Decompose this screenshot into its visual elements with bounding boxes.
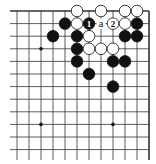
white-stone	[119, 5, 131, 17]
white-stone-icon	[95, 5, 107, 17]
black-stone-icon	[107, 56, 119, 68]
black-stone-icon	[71, 56, 83, 68]
point-letter-label: a	[99, 17, 104, 29]
white-stone-icon	[119, 5, 131, 17]
black-stone-icon	[71, 30, 83, 42]
move-number-label: 2	[111, 19, 116, 29]
black-stone	[107, 56, 119, 68]
white-stone-icon	[71, 5, 83, 17]
white-stone	[83, 43, 95, 55]
black-stone-icon	[71, 43, 83, 55]
white-stone-icon	[83, 30, 95, 42]
white-stone-icon	[95, 43, 107, 55]
black-stone-icon	[107, 81, 119, 93]
white-stone	[107, 43, 119, 55]
black-stone	[47, 30, 59, 42]
white-stone	[95, 5, 107, 17]
white-stone	[83, 30, 95, 42]
white-stone-icon	[83, 43, 95, 55]
white-stone	[71, 18, 83, 30]
black-stone	[71, 56, 83, 68]
black-stone-icon	[59, 18, 71, 30]
black-stone	[71, 30, 83, 42]
white-stone	[119, 18, 131, 30]
black-stone	[59, 18, 71, 30]
white-stone-icon	[119, 18, 131, 30]
go-board-diagram: 12 a	[0, 0, 156, 164]
point-labels: a	[97, 17, 106, 29]
white-stone-icon	[107, 43, 119, 55]
black-stone-icon	[47, 30, 59, 42]
star-point-icon	[39, 123, 43, 127]
black-stone	[71, 43, 83, 55]
white-stone	[71, 5, 83, 17]
black-stone-icon	[131, 18, 143, 30]
white-stone-icon	[71, 18, 83, 30]
black-stone-icon	[119, 56, 131, 68]
star-point-icon	[111, 123, 115, 127]
black-stone	[83, 68, 95, 80]
star-point-icon	[39, 47, 43, 51]
black-stone	[131, 18, 143, 30]
white-stone	[131, 5, 143, 17]
black-stone-icon	[119, 30, 131, 42]
move-number-label: 1	[87, 19, 92, 29]
black-stone	[131, 30, 143, 42]
black-stone-icon	[83, 68, 95, 80]
black-stone	[119, 30, 131, 42]
white-stone: 2	[107, 18, 119, 30]
black-stone-icon	[131, 30, 143, 42]
white-stone-icon	[131, 5, 143, 17]
black-stone: 1	[83, 18, 95, 30]
black-stone	[119, 56, 131, 68]
white-stone	[95, 43, 107, 55]
black-stone	[107, 81, 119, 93]
